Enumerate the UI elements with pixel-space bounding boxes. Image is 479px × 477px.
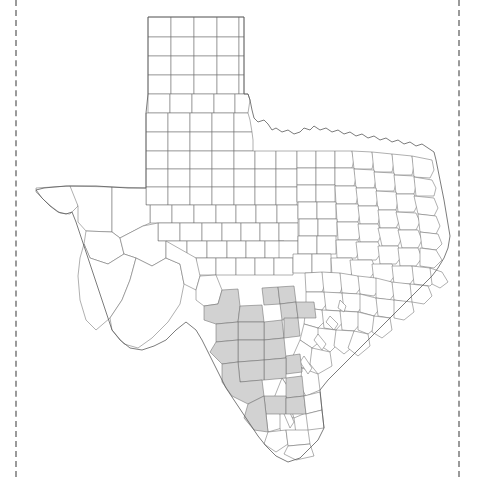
region-east-texas — [304, 272, 432, 338]
region-north-central — [297, 151, 442, 250]
map-page — [0, 0, 479, 477]
texas-county-map — [0, 0, 479, 477]
region-panhandle — [146, 17, 298, 275]
map-svg — [0, 0, 479, 477]
shaded-county-group — [204, 286, 316, 432]
